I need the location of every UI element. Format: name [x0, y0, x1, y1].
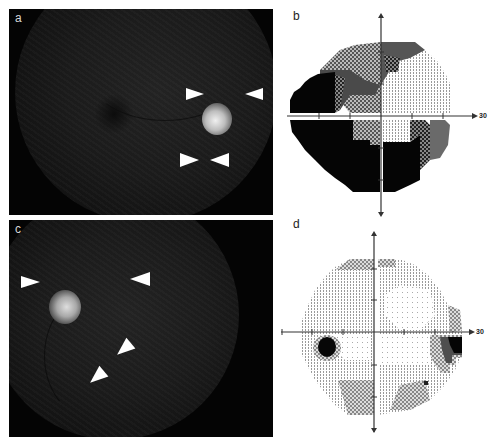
- arrowhead-icon: [210, 153, 229, 167]
- visual-field-map: [280, 215, 490, 446]
- panel-b-visual-field: b: [280, 0, 490, 220]
- arrowhead-icon: [21, 276, 40, 288]
- visual-field-map: [280, 0, 490, 220]
- panel-c-fundus-photo: c: [9, 220, 273, 437]
- panel-label: c: [15, 223, 21, 235]
- macula: [94, 94, 134, 134]
- optic-disc: [49, 290, 81, 324]
- axis-label-30: 30: [479, 112, 487, 119]
- panel-label: a: [15, 12, 22, 24]
- arrowhead-icon: [245, 88, 263, 100]
- arrowhead-icon: [130, 272, 150, 286]
- arrowhead-icon: [186, 88, 204, 100]
- arrowhead-icon: [180, 153, 199, 167]
- axis-label-30: 30: [476, 328, 484, 335]
- panel-a-fundus-photo: a: [9, 9, 273, 215]
- panel-d-visual-field: d: [280, 215, 490, 446]
- optic-disc: [202, 103, 232, 135]
